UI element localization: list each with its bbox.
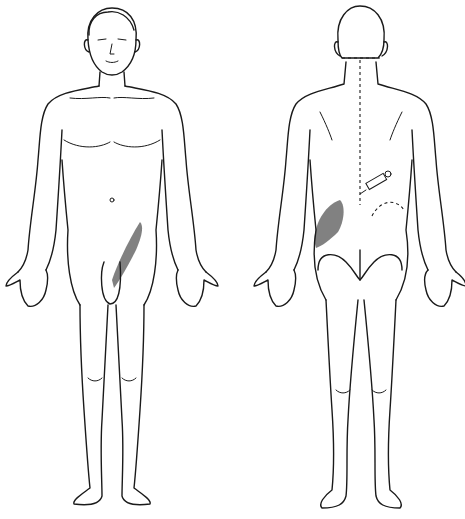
body-diagram-svg — [0, 0, 465, 519]
body-diagram — [0, 0, 465, 519]
posterior-pain-stipple — [314, 200, 344, 248]
syringe-icon — [360, 171, 391, 194]
trigger-dashed-arc — [372, 202, 404, 216]
posterior-figure — [254, 6, 465, 508]
anterior-figure — [6, 8, 218, 505]
anterior-pain-stipple — [112, 222, 142, 288]
